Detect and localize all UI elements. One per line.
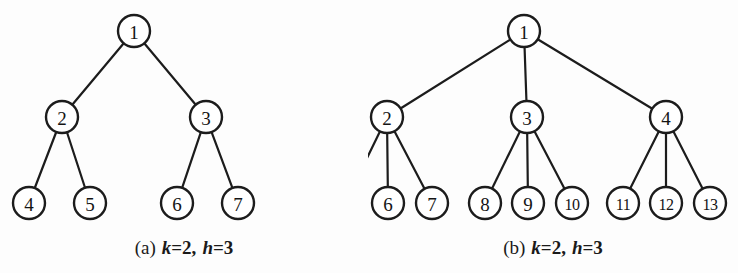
tree-edge — [534, 130, 565, 189]
tree-node: 11 — [607, 187, 639, 219]
tree-node: 4 — [650, 101, 682, 133]
tree-node-label: 7 — [233, 194, 243, 215]
tree-node: 2 — [371, 101, 403, 133]
caption-a-param1-value: =2, — [171, 237, 196, 258]
tree-node: 12 — [650, 187, 682, 219]
tree-node-label: 11 — [616, 196, 631, 213]
tree-node-label: 2 — [382, 108, 392, 129]
caption-b-param1-value: =2, — [541, 237, 566, 258]
figure-b: 12345678910111213 (b)k=2,h=3 — [368, 0, 738, 273]
caption-b-tag: (b) — [503, 237, 525, 258]
tree-edge — [492, 130, 521, 189]
caption-a-param1-name: k — [162, 237, 172, 258]
caption-b-param1-name: k — [531, 237, 541, 258]
tree-node: 2 — [46, 101, 78, 133]
tree-node: 7 — [222, 187, 254, 219]
tree-node-label: 5 — [85, 194, 95, 215]
tree-node: 3 — [190, 101, 222, 133]
tree-node-label: 7 — [427, 194, 437, 215]
tree-edge — [537, 39, 653, 109]
tree-node: 9 — [512, 187, 544, 219]
tree-node: 1 — [508, 15, 540, 47]
tree-node: 8 — [469, 187, 501, 219]
tree-node-label: 3 — [522, 108, 532, 129]
tree-node-label: 8 — [480, 194, 490, 215]
caption-a: (a)k=2,h=3 — [0, 237, 368, 259]
figure-page: 1234567 (a)k=2,h=3 12345678910111213 (b)… — [0, 0, 738, 273]
tree-edge — [387, 132, 388, 188]
tree-node-label: 9 — [523, 194, 533, 215]
tree-node-label: 2 — [57, 108, 67, 129]
tree-node: 6 — [372, 187, 404, 219]
tree-node-label: 4 — [661, 108, 671, 129]
tree-edge — [527, 132, 528, 188]
caption-b: (b)k=2,h=3 — [368, 237, 738, 259]
tree-edge — [34, 131, 56, 189]
caption-b-param2-value: =3 — [582, 237, 602, 258]
tree-edge — [182, 131, 201, 189]
tree-node: 4 — [13, 187, 45, 219]
tree-edge — [630, 130, 660, 189]
tree-node: 5 — [74, 187, 106, 219]
tree-node-label: 6 — [172, 194, 182, 215]
tree-diagram-a: 1234567 — [0, 0, 368, 232]
tree-node: 7 — [416, 187, 448, 219]
tree-edge — [673, 130, 703, 189]
tree-edge — [211, 131, 233, 189]
tree-node-label: 13 — [703, 196, 719, 213]
caption-b-param2-name: h — [572, 237, 583, 258]
tree-node-label: 4 — [24, 194, 34, 215]
tree-node-label: 12 — [659, 196, 675, 213]
tree-edge — [67, 131, 86, 188]
tree-edge — [72, 43, 125, 106]
tree-node-label: 10 — [565, 196, 581, 213]
caption-a-tag: (a) — [135, 237, 156, 258]
figure-a: 1234567 (a)k=2,h=3 — [0, 0, 368, 273]
tree-node-label: 1 — [519, 22, 529, 43]
tree-node: 13 — [694, 187, 726, 219]
tree-node: 1 — [118, 15, 150, 47]
tree-node: 3 — [511, 101, 543, 133]
tree-node-label: 3 — [201, 108, 211, 129]
caption-a-param2-name: h — [202, 237, 213, 258]
tree-edge — [368, 130, 380, 189]
tree-edge — [400, 39, 512, 109]
caption-a-param2-value: =3 — [213, 237, 233, 258]
tree-node-label: 6 — [383, 194, 393, 215]
tree-node: 6 — [161, 187, 193, 219]
tree-node-label: 1 — [129, 22, 139, 43]
tree-edge — [144, 43, 197, 106]
tree-edge — [525, 46, 527, 102]
tree-edge — [394, 130, 425, 189]
tree-diagram-b: 12345678910111213 — [368, 0, 738, 232]
tree-node: 10 — [556, 187, 588, 219]
